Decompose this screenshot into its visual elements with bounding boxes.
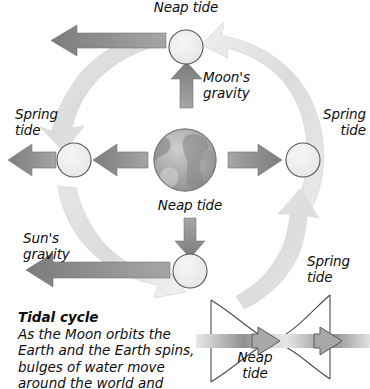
left-outward-arrow: [8, 144, 56, 176]
inset-top-curve: [211, 295, 330, 340]
label-spring-tide-inset: Spring tide: [307, 254, 369, 285]
label-suns-gravity: Sun's gravity: [23, 231, 103, 262]
label-moons-gravity: Moon's gravity: [203, 70, 283, 101]
moon-bottom: [173, 254, 207, 288]
earth-to-right-moon-arrow: [228, 144, 282, 176]
caption-block: Tidal cycle As the Moon orbits the Earth…: [18, 309, 200, 389]
earth-globe: [150, 129, 216, 191]
tidal-cycle-diagram: Neap tide Spring tide Spring tide Moon's…: [0, 0, 370, 389]
label-neap-tide-top: Neap tide: [136, 0, 236, 16]
neap-down-arrow: [175, 218, 205, 258]
orbit-arc-lower-right: [236, 189, 319, 309]
moon-right: [286, 143, 320, 177]
moon-left: [57, 143, 91, 177]
moon-gravity-up-arrow: [171, 62, 202, 108]
label-neap-tide-bottom: Neap tide: [140, 198, 240, 214]
earth-to-left-moon-arrow: [93, 144, 148, 176]
label-spring-tide-right: Spring tide: [300, 107, 366, 138]
label-neap-tide-inset: Neap tide: [226, 350, 284, 381]
caption-body: As the Moon orbits the Earth and the Ear…: [18, 326, 200, 389]
caption-title: Tidal cycle: [18, 309, 200, 325]
moon-top: [169, 30, 203, 64]
label-spring-tide-left: Spring tide: [15, 107, 85, 138]
